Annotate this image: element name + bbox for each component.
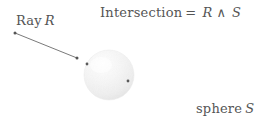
exit-point-marker	[127, 80, 130, 83]
intersection-left-symbol: R	[199, 5, 213, 20]
intersection-label-text: Intersection	[100, 5, 182, 20]
sphere-label-text: sphere	[196, 101, 242, 116]
ray-end-point	[76, 57, 79, 60]
entry-point-marker	[86, 63, 89, 66]
ray-label-text: Ray	[16, 13, 42, 28]
sphere-shape	[84, 50, 134, 100]
sphere-label: sphereS	[196, 102, 255, 115]
ray-sphere-intersection-diagram: RayR Intersection=R∧S sphereS	[0, 0, 273, 124]
equals-sign: =	[182, 5, 199, 20]
intersection-label: Intersection=R∧S	[100, 6, 242, 19]
ray-label: RayR	[16, 14, 56, 27]
ray-label-symbol: R	[42, 13, 56, 28]
sphere-label-symbol: S	[242, 101, 255, 116]
intersection-right-symbol: S	[229, 5, 242, 20]
ray-segment	[15, 33, 77, 58]
wedge-operator-icon: ∧	[213, 5, 229, 20]
ray-origin-point	[14, 32, 17, 35]
